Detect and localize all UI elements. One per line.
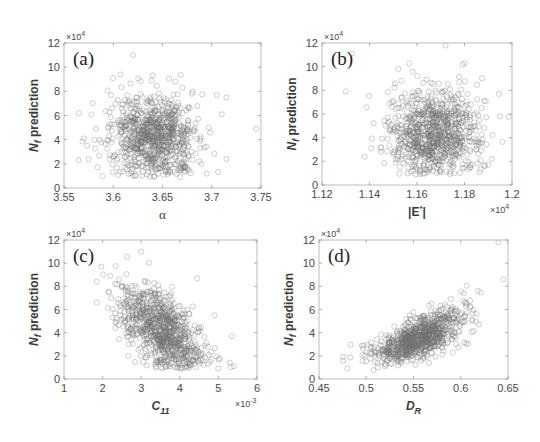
svg-text:0.55: 0.55 [403, 382, 424, 394]
scatter-points [340, 240, 506, 373]
scatter-panel-a: 0246810123.553.63.653.73.75×104(a)Nf pre… [27, 30, 272, 222]
x-axis-label: |E*| [408, 204, 426, 219]
x-multiplier: ×10-3 [235, 397, 257, 409]
svg-text:1.14: 1.14 [359, 188, 380, 200]
svg-text:8: 8 [54, 280, 60, 292]
svg-text:1.2: 1.2 [504, 188, 519, 200]
svg-text:3.55: 3.55 [53, 191, 74, 203]
x-axis-label: DR [406, 399, 422, 416]
svg-text:3.6: 3.6 [106, 191, 121, 203]
x-multiplier: ×104 [490, 203, 509, 215]
svg-text:12: 12 [306, 37, 318, 49]
y-axis-label: Nf prediction [27, 79, 43, 152]
y-multiplier: ×104 [66, 227, 85, 239]
svg-text:3.65: 3.65 [152, 191, 173, 203]
svg-text:1.18: 1.18 [454, 188, 475, 200]
svg-text:10: 10 [48, 257, 60, 269]
svg-text:12: 12 [303, 234, 315, 246]
y-multiplier: ×104 [324, 30, 343, 42]
panel-label: (a) [73, 48, 94, 70]
svg-text:3.7: 3.7 [204, 191, 219, 203]
scatter-panel-b: 0246810121.121.141.161.181.2×104×104(b)N… [285, 30, 520, 219]
svg-text:0.65: 0.65 [497, 382, 518, 394]
svg-text:8: 8 [54, 85, 60, 97]
svg-text:2: 2 [54, 350, 60, 362]
panel-label: (c) [73, 245, 94, 267]
svg-text:3: 3 [138, 382, 144, 394]
svg-text:10: 10 [306, 61, 318, 73]
svg-text:0.45: 0.45 [308, 382, 329, 394]
figure-2x2-scatter: 0246810123.553.63.653.73.75×104(a)Nf pre… [0, 0, 540, 442]
x-axis-label: C11 [151, 399, 169, 416]
svg-text:2: 2 [309, 350, 315, 362]
svg-text:6: 6 [312, 108, 318, 120]
scatter-points [76, 53, 259, 180]
svg-text:0.6: 0.6 [453, 382, 468, 394]
svg-text:2: 2 [54, 158, 60, 170]
panel-label: (d) [328, 245, 350, 267]
svg-text:6: 6 [254, 382, 260, 394]
svg-text:10: 10 [48, 61, 60, 73]
svg-text:4: 4 [312, 132, 318, 144]
svg-text:3.75: 3.75 [250, 191, 271, 203]
svg-text:1.16: 1.16 [406, 188, 427, 200]
y-multiplier: ×104 [66, 30, 85, 42]
svg-text:4: 4 [54, 134, 60, 146]
scatter-points [343, 43, 511, 177]
svg-text:4: 4 [309, 327, 315, 339]
svg-text:0: 0 [54, 373, 60, 385]
y-multiplier: ×104 [321, 227, 340, 239]
scatter-points [94, 249, 236, 371]
y-axis-label: Nf prediction [27, 273, 43, 346]
scatter-panel-c: 024681012123456×104×10-3(c)Nf prediction… [27, 227, 260, 416]
svg-text:6: 6 [54, 110, 60, 122]
svg-text:0.5: 0.5 [359, 382, 374, 394]
y-axis-label: Nf prediction [285, 77, 301, 150]
svg-text:1: 1 [61, 382, 67, 394]
svg-text:8: 8 [309, 280, 315, 292]
svg-text:2: 2 [100, 382, 106, 394]
svg-text:4: 4 [54, 327, 60, 339]
svg-text:5: 5 [215, 382, 221, 394]
svg-text:2: 2 [312, 155, 318, 167]
svg-text:10: 10 [303, 257, 315, 269]
panel-label: (b) [331, 48, 353, 70]
svg-text:12: 12 [48, 234, 60, 246]
svg-text:6: 6 [54, 304, 60, 316]
svg-text:4: 4 [177, 382, 183, 394]
scatter-panel-d: 0246810120.450.50.550.60.65×104(d)Nf pre… [282, 227, 519, 416]
svg-text:8: 8 [312, 84, 318, 96]
svg-text:12: 12 [48, 37, 60, 49]
svg-text:6: 6 [309, 304, 315, 316]
y-axis-label: Nf prediction [282, 273, 298, 346]
svg-text:1.12: 1.12 [311, 188, 332, 200]
x-axis-label: α [159, 207, 166, 222]
